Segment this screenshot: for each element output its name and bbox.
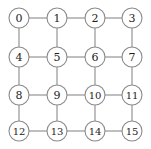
node-label: 1	[54, 12, 61, 25]
node-label: 12	[13, 126, 26, 137]
node-label: 0	[16, 12, 23, 25]
node-label: 3	[129, 12, 136, 25]
node-label: 9	[54, 89, 61, 102]
node-label: 4	[16, 51, 23, 64]
node-label: 10	[89, 90, 102, 101]
node-label: 11	[126, 90, 139, 101]
graph-node[interactable]: 9	[47, 85, 67, 105]
node-label: 2	[92, 12, 99, 25]
graph-node[interactable]: 14	[85, 121, 105, 141]
graph-node[interactable]: 11	[122, 85, 142, 105]
node-label: 6	[92, 51, 99, 64]
node-label: 7	[129, 51, 136, 64]
graph-svg-canvas: 0123456789101112131415	[0, 0, 151, 149]
graph-node[interactable]: 5	[47, 47, 67, 67]
node-label: 13	[51, 126, 64, 137]
node-label: 8	[16, 89, 23, 102]
graph-node[interactable]: 4	[9, 47, 29, 67]
nodes-group: 0123456789101112131415	[9, 8, 142, 141]
graph-node[interactable]: 15	[122, 121, 142, 141]
graph-node[interactable]: 10	[85, 85, 105, 105]
node-label: 15	[126, 126, 139, 137]
graph-node[interactable]: 2	[85, 8, 105, 28]
graph-node[interactable]: 12	[9, 121, 29, 141]
node-label: 5	[54, 51, 61, 64]
grid-graph-diagram: 0123456789101112131415	[0, 0, 151, 149]
node-label: 14	[89, 126, 102, 137]
edges-group	[19, 18, 132, 131]
graph-node[interactable]: 3	[122, 8, 142, 28]
graph-node[interactable]: 1	[47, 8, 67, 28]
graph-node[interactable]: 13	[47, 121, 67, 141]
graph-node[interactable]: 8	[9, 85, 29, 105]
graph-node[interactable]: 7	[122, 47, 142, 67]
graph-node[interactable]: 0	[9, 8, 29, 28]
graph-node[interactable]: 6	[85, 47, 105, 67]
